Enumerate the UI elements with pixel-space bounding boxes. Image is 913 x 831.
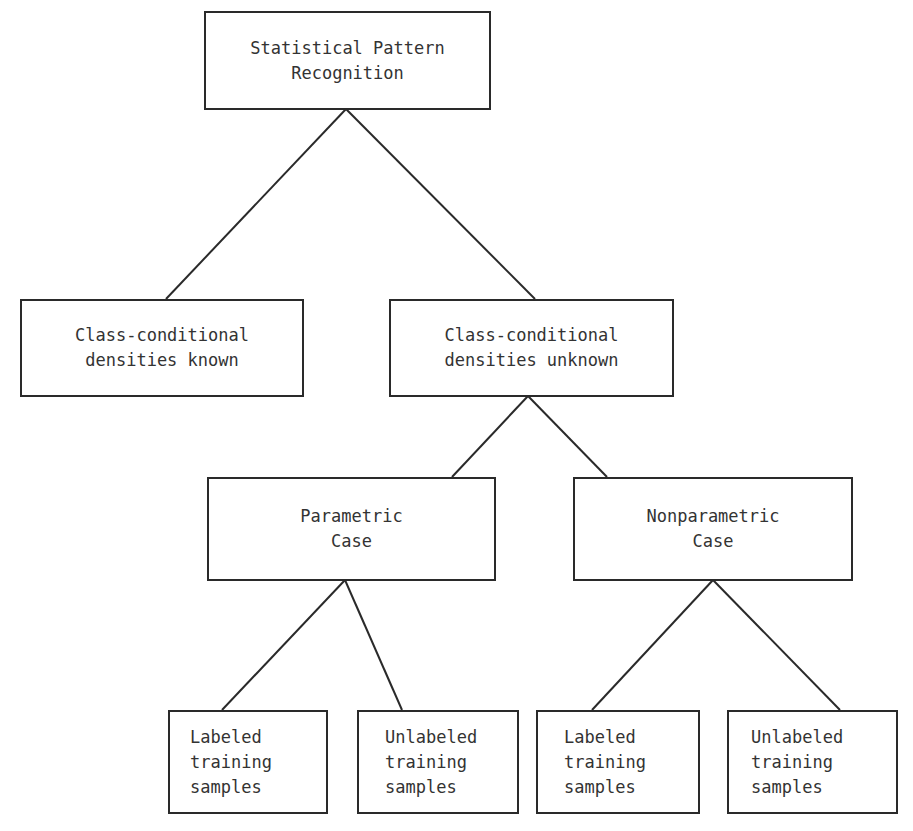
edge-nonparametric-labeled bbox=[592, 580, 713, 710]
node-label-line: Class-conditional bbox=[75, 323, 249, 348]
node-parametric-unlabeled-samples: Unlabeled training samples bbox=[357, 710, 519, 814]
node-label-line: Statistical Pattern bbox=[250, 36, 444, 61]
edge-nonparametric-unlabeled bbox=[713, 580, 840, 710]
node-label-line: training bbox=[190, 750, 272, 775]
node-label-line: Nonparametric bbox=[646, 504, 779, 529]
node-label-line: training bbox=[564, 750, 646, 775]
tree-connectors bbox=[0, 0, 913, 831]
node-label-line: samples bbox=[190, 775, 262, 800]
node-label-line: Class-conditional bbox=[445, 323, 619, 348]
node-parametric-case: Parametric Case bbox=[207, 477, 496, 581]
node-label-line: Case bbox=[331, 529, 372, 554]
edge-unknown-parametric bbox=[452, 396, 528, 477]
node-densities-known: Class-conditional densities known bbox=[20, 299, 304, 397]
node-statistical-pattern-recognition: Statistical Pattern Recognition bbox=[204, 11, 491, 110]
node-label-line: densities known bbox=[85, 348, 239, 373]
node-label-line: training bbox=[385, 750, 467, 775]
edge-root-unknown bbox=[346, 109, 535, 299]
node-label-line: densities unknown bbox=[445, 348, 619, 373]
node-label-line: Unlabeled bbox=[385, 725, 477, 750]
node-densities-unknown: Class-conditional densities unknown bbox=[389, 299, 674, 397]
edge-root-known bbox=[166, 109, 346, 299]
node-nonparametric-unlabeled-samples: Unlabeled training samples bbox=[727, 710, 898, 814]
diagram-canvas: Statistical Pattern Recognition Class-co… bbox=[0, 0, 913, 831]
node-label-line: Recognition bbox=[291, 61, 404, 86]
node-label-line: Labeled bbox=[564, 725, 636, 750]
node-label-line: Unlabeled bbox=[751, 725, 843, 750]
node-label-line: Case bbox=[693, 529, 734, 554]
node-label-line: samples bbox=[751, 775, 823, 800]
edge-parametric-labeled bbox=[222, 580, 345, 710]
node-label-line: samples bbox=[564, 775, 636, 800]
edge-unknown-nonparametric bbox=[528, 396, 607, 477]
edge-parametric-unlabeled bbox=[345, 580, 402, 710]
node-parametric-labeled-samples: Labeled training samples bbox=[168, 710, 328, 814]
node-label-line: Labeled bbox=[190, 725, 262, 750]
node-nonparametric-case: Nonparametric Case bbox=[573, 477, 853, 581]
node-nonparametric-labeled-samples: Labeled training samples bbox=[536, 710, 700, 814]
node-label-line: samples bbox=[385, 775, 457, 800]
node-label-line: Parametric bbox=[300, 504, 402, 529]
node-label-line: training bbox=[751, 750, 833, 775]
